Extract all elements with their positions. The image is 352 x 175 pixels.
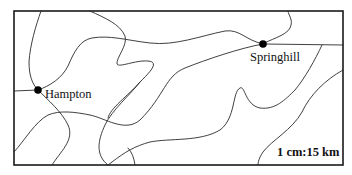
road-springhill-east bbox=[263, 44, 343, 45]
city-label-hampton: Hampton bbox=[45, 87, 92, 101]
road-hampton-to-springhill-north bbox=[38, 31, 263, 90]
road-hampton-southeast bbox=[38, 90, 70, 165]
city-dot-springhill bbox=[259, 40, 267, 48]
road-top-left-to-hampton bbox=[29, 11, 41, 90]
road-map: Springhill Hampton 1 cm:15 km bbox=[0, 0, 352, 175]
city-label-springhill: Springhill bbox=[250, 50, 301, 64]
road-springhill-north bbox=[263, 11, 291, 44]
map-scale: 1 cm:15 km bbox=[277, 145, 340, 159]
city-dot-hampton bbox=[34, 86, 42, 94]
